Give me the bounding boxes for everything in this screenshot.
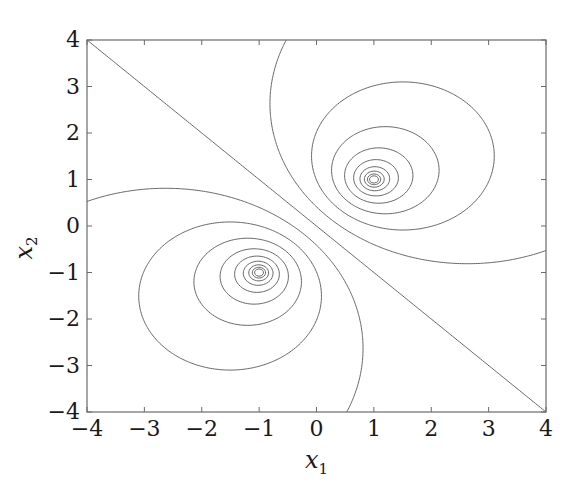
y-tick-label: 2: [20, 122, 80, 144]
y-tick-label: 1: [20, 169, 80, 191]
x-tick-label: 0: [310, 418, 324, 440]
contour-level: [370, 176, 379, 183]
x-tick-label: −1: [243, 418, 275, 440]
contour-level: [87, 40, 546, 412]
y-tick-label: 4: [20, 29, 80, 51]
y-tick-label: −2: [20, 308, 80, 330]
x-tick-label: −2: [186, 418, 218, 440]
y-tick-label: −1: [20, 262, 80, 284]
y-tick-label: −3: [20, 355, 80, 377]
x-tick-label: −3: [128, 418, 160, 440]
x-tick-label: 1: [367, 418, 381, 440]
x-tick-label: 2: [424, 418, 438, 440]
x-tick-label: 4: [539, 418, 553, 440]
y-tick-label: 3: [20, 76, 80, 98]
x-tick-label: 3: [482, 418, 496, 440]
y-tick-label: 0: [20, 215, 80, 237]
contour-level: [255, 269, 264, 276]
y-axis-label: x2: [10, 236, 42, 259]
contour-lines: [87, 40, 546, 412]
y-tick-label: −4: [20, 401, 80, 423]
x-axis-label: x1: [305, 446, 328, 478]
